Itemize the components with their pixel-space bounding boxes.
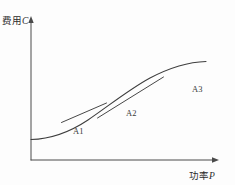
- point-label-a1: A1: [73, 126, 83, 136]
- point-label-a3: A3: [192, 84, 202, 94]
- tangent-a1-path: [62, 103, 107, 123]
- x-axis-label: 功率P: [189, 168, 215, 182]
- y-axis-label-text: 费用: [2, 16, 22, 26]
- x-axis: [31, 157, 219, 162]
- y-axis-label-variable: C: [22, 16, 28, 26]
- cost-vs-power-diagram: 费用C 功率P A1 A2 A3: [0, 0, 235, 185]
- point-label-a2: A2: [126, 108, 136, 118]
- x-axis-label-variable: P: [209, 171, 215, 181]
- tangent-line-a1: [62, 103, 107, 123]
- cost-curve: [31, 62, 206, 140]
- cost-curve-path: [31, 62, 206, 140]
- y-axis-label: 费用C: [2, 13, 28, 27]
- x-axis-label-text: 功率: [189, 171, 209, 181]
- y-axis: [28, 16, 33, 160]
- y-axis-arrowhead-icon: [28, 16, 33, 23]
- x-axis-arrowhead-icon: [212, 157, 219, 162]
